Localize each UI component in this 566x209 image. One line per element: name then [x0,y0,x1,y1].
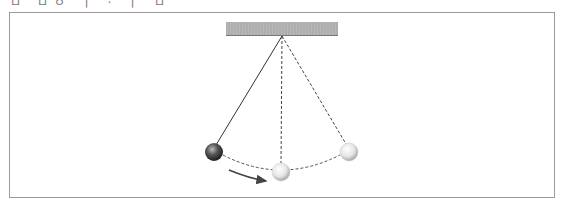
pendulum-ball-bottom [272,163,290,181]
ceiling-support [226,22,338,36]
pendulum-ball-end [340,143,358,161]
swing-direction-arrow-icon [229,170,266,181]
pendulum-string-dashed-right [282,36,346,144]
pendulum-ball-start [205,143,223,161]
pendulum-string-dashed-center [281,36,282,163]
pendulum-string-solid [216,36,282,145]
pendulum-diagram [0,0,566,209]
